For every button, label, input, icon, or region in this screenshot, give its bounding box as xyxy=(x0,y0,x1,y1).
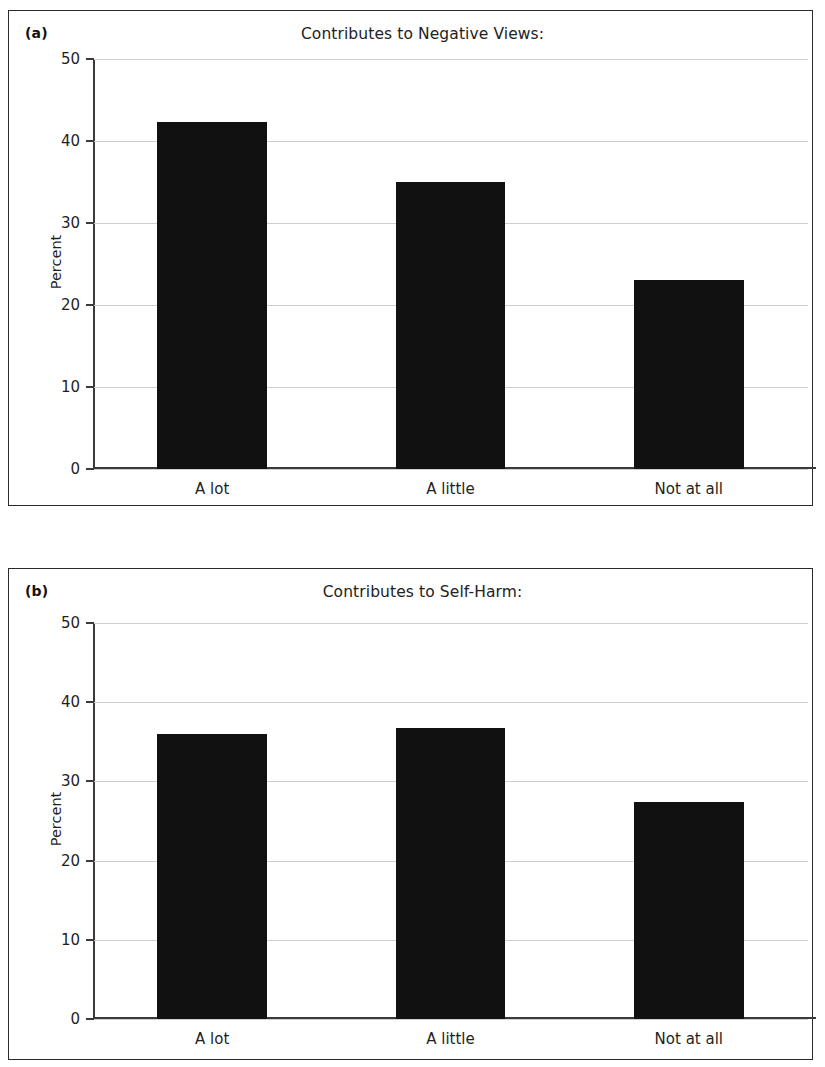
y-tick-mark xyxy=(86,386,94,388)
y-axis-line-a xyxy=(93,59,95,469)
gridline xyxy=(93,702,808,703)
y-tick-label: 40 xyxy=(61,693,80,711)
x-tick-label: A lot xyxy=(93,1030,331,1048)
y-tick-label: 20 xyxy=(61,852,80,870)
plot-area-b: 01020304050 A lotA littleNot at all Perc… xyxy=(93,623,808,1019)
plot-area-a: 01020304050 A lotA littleNot at all Perc… xyxy=(93,59,808,469)
bar xyxy=(157,122,267,469)
y-axis-title-b: Percent xyxy=(48,792,64,847)
y-tick-mark xyxy=(86,140,94,142)
y-tick-label: 10 xyxy=(61,378,80,396)
gridline xyxy=(93,623,808,624)
y-axis-line-b xyxy=(93,623,95,1019)
y-tick-mark xyxy=(86,468,94,470)
gridline xyxy=(93,469,808,470)
bar xyxy=(634,280,744,469)
y-tick-mark xyxy=(86,222,94,224)
y-tick-label: 30 xyxy=(61,214,80,232)
y-tick-label: 40 xyxy=(61,132,80,150)
bar xyxy=(396,182,506,469)
gridline xyxy=(93,59,808,60)
y-tick-label: 50 xyxy=(61,50,80,68)
chart-title-b: Contributes to Self-Harm: xyxy=(9,583,812,601)
y-tick-mark xyxy=(86,1018,94,1020)
bar xyxy=(396,728,506,1019)
bar xyxy=(157,734,267,1019)
chart-panel-a: (a) Contributes to Negative Views: 01020… xyxy=(8,10,813,506)
y-axis-title-a: Percent xyxy=(48,235,64,290)
y-tick-label: 30 xyxy=(61,772,80,790)
x-tick-label: A lot xyxy=(93,480,331,498)
x-tick-label: Not at all xyxy=(570,480,808,498)
gridline xyxy=(93,1019,808,1020)
y-tick-label: 20 xyxy=(61,296,80,314)
y-tick-mark xyxy=(86,304,94,306)
bar xyxy=(634,802,744,1019)
figure: (a) Contributes to Negative Views: 01020… xyxy=(0,0,825,1067)
y-tick-mark xyxy=(86,860,94,862)
y-tick-label: 10 xyxy=(61,931,80,949)
y-tick-label: 50 xyxy=(61,614,80,632)
y-tick-label: 0 xyxy=(70,460,80,478)
y-tick-label: 0 xyxy=(70,1010,80,1028)
x-tick-label: Not at all xyxy=(570,1030,808,1048)
y-tick-mark xyxy=(86,701,94,703)
y-tick-mark xyxy=(86,780,94,782)
x-tick-label: A little xyxy=(331,1030,569,1048)
y-tick-mark xyxy=(86,622,94,624)
x-tick-label: A little xyxy=(331,480,569,498)
y-tick-mark xyxy=(86,939,94,941)
chart-panel-b: (b) Contributes to Self-Harm: 0102030405… xyxy=(8,568,813,1060)
chart-title-a: Contributes to Negative Views: xyxy=(9,25,812,43)
y-tick-mark xyxy=(86,58,94,60)
